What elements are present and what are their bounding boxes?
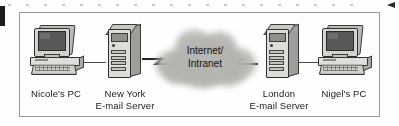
nigels-pc-caption-line-1: Nigel's PC (296, 88, 392, 100)
new-york-server-caption-line-1: New York (78, 88, 172, 100)
node-label-new-york-server: New York E-mail Server (78, 88, 172, 111)
desktop-computer-icon (28, 24, 84, 74)
node-label-nigels-pc: Nigel's PC (296, 88, 392, 100)
node-nicoles-pc[interactable] (28, 24, 84, 74)
internet-cloud-label: Internet/ Intranet (150, 44, 260, 70)
desktop-computer-icon (316, 24, 372, 74)
cloud-label-line-2: Intranet (150, 57, 260, 70)
node-nigels-pc[interactable] (316, 24, 372, 74)
tower-server-icon (104, 24, 144, 78)
link-pc-to-ny-server (82, 62, 106, 63)
tower-server-icon (262, 24, 302, 78)
diagram-page: Internet/ Intranet Nicole's PC (0, 0, 399, 126)
cloud-label-line-1: Internet/ (150, 44, 260, 57)
london-server-caption-line-2: E-mail Server (232, 100, 326, 112)
node-new-york-server[interactable] (104, 24, 144, 78)
node-london-server[interactable] (262, 24, 302, 78)
new-york-server-caption-line-2: E-mail Server (78, 100, 172, 112)
diagram-canvas: Internet/ Intranet Nicole's PC (0, 0, 399, 126)
